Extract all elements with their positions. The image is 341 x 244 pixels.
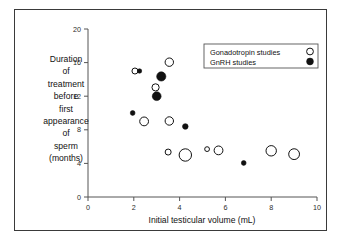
series-gnrh [130, 69, 246, 166]
series-gonadotropin [132, 58, 300, 161]
data-point [183, 124, 189, 130]
x-axis-tick-labels: 0246810 [86, 203, 321, 212]
data-point [152, 84, 159, 91]
data-point [165, 149, 171, 155]
x-tick-label: 4 [178, 203, 182, 212]
y-axis-title-line: appearance [43, 116, 89, 126]
y-axis-title-line: before [54, 91, 79, 101]
data-point [157, 72, 166, 81]
data-point [241, 161, 246, 166]
x-tick-label: 6 [223, 203, 227, 212]
data-point [289, 149, 300, 160]
data-points [130, 58, 299, 165]
y-axis-title-line: (months) [49, 153, 83, 163]
y-axis-title-line: of [62, 128, 70, 138]
y-tick-label: 0 [77, 193, 81, 202]
y-axis-title: Durationoftreatmentbeforefirstappearance… [43, 54, 89, 163]
scatter-plot: 048121620 0246810 Durationoftreatmentbef… [0, 0, 341, 244]
x-tick-label: 0 [86, 203, 90, 212]
legend-marker-filled-circle [307, 58, 314, 65]
y-axis-ticks [84, 29, 88, 197]
y-axis-title-line: treatment [48, 79, 85, 89]
y-axis-title-line: first [59, 104, 73, 114]
data-point [165, 117, 173, 125]
x-axis-ticks [88, 197, 317, 201]
data-point [140, 117, 149, 126]
y-axis-title-line: sperm [54, 141, 78, 151]
y-axis-title-line: of [62, 66, 70, 76]
legend-label-gonadotropin: Gonadotropin studies [210, 48, 281, 57]
x-tick-label: 10 [313, 203, 321, 212]
legend-label-gnrh: GnRH studies [210, 58, 256, 67]
y-tick-label: 8 [77, 125, 81, 134]
data-point [152, 92, 161, 101]
y-axis-title-line: Duration [50, 54, 83, 64]
data-point [179, 149, 191, 161]
data-point [214, 146, 223, 155]
y-tick-label: 20 [73, 25, 81, 34]
x-tick-label: 2 [132, 203, 136, 212]
chart-legend: Gonadotropin studies GnRH studies [204, 44, 318, 68]
y-axis-tick-labels: 048121620 [73, 25, 81, 202]
data-point [137, 69, 141, 73]
x-tick-label: 8 [269, 203, 273, 212]
data-point [266, 146, 276, 156]
scatter-chart-figure: 048121620 0246810 Durationoftreatmentbef… [0, 0, 341, 244]
data-point [165, 58, 173, 66]
data-point [130, 111, 135, 116]
x-axis-title: Initial testicular volume (mL) [149, 215, 256, 225]
data-point [205, 147, 210, 152]
